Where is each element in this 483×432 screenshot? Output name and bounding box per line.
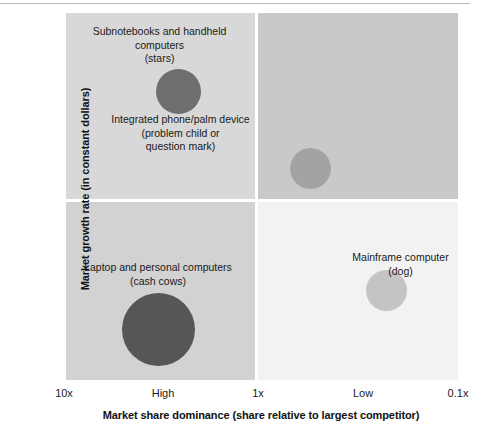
x-axis-tick-1x: 1x [223, 387, 293, 399]
quadrant-label-stars: Subnotebooks and handheld computers (sta… [72, 25, 247, 66]
bcg-matrix-plot-area: Subnotebooks and handheld computers (sta… [66, 13, 458, 380]
bubble-cash-cows [122, 293, 195, 366]
x-axis-tick-0.1x: 0.1x [423, 387, 483, 399]
bubble-question-mark [290, 148, 331, 189]
quadrant-label-dog: Mainframe computer (dog) [328, 251, 473, 278]
quadrant-question-mark [258, 13, 458, 199]
quadrant-label-question-mark: Integrated phone/palm device (problem ch… [88, 113, 273, 154]
x-axis-tick-10x: 10x [29, 387, 99, 399]
quadrant-dog [258, 202, 458, 380]
x-axis-tick-high: High [128, 387, 198, 399]
quadrant-label-cash-cows: Laptop and personal computers (cash cows… [68, 261, 248, 288]
x-axis-title: Market share dominance (share relative t… [6, 409, 483, 421]
y-axis-title: Market growth rate (in constant dollars) [79, 0, 91, 384]
bubble-stars [156, 69, 201, 114]
top-divider-rule [0, 3, 470, 4]
x-axis-tick-low: Low [328, 387, 398, 399]
